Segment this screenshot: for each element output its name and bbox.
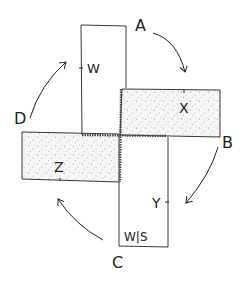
- label-b: B: [222, 133, 233, 152]
- arrow-d-to-a: [30, 62, 66, 118]
- label-w: W: [87, 61, 100, 76]
- rect-top-w: W: [79, 25, 126, 135]
- arrow-c-to-d: [58, 199, 103, 240]
- label-c: C: [112, 253, 123, 272]
- rect-bottom-y: Y W|S: [119, 137, 169, 247]
- label-d: D: [14, 109, 26, 128]
- pinwheel-diagram: X Z W Y W|S A B C D: [0, 0, 247, 289]
- label-x: X: [179, 100, 189, 116]
- label-w-s: W|S: [124, 230, 148, 244]
- arrow-b-to-c: [186, 147, 218, 203]
- arrow-a-to-b: [153, 33, 185, 72]
- rect-left-z: Z: [22, 132, 119, 182]
- label-a: A: [135, 16, 146, 35]
- rect-right-x: X: [120, 89, 220, 137]
- label-y: Y: [151, 195, 161, 211]
- label-z: Z: [54, 159, 64, 175]
